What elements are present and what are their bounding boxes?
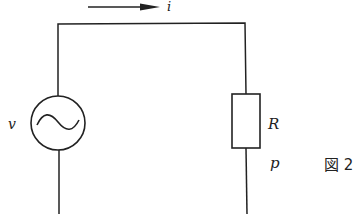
source-label: v: [8, 116, 16, 132]
current-label: i: [167, 0, 171, 14]
current-arrow-icon: [88, 4, 160, 11]
wire: [58, 23, 247, 214]
circuit-diagram: i v R p 図 2: [0, 0, 357, 214]
figure-caption: 図 2: [324, 156, 353, 174]
power-label: p: [270, 154, 280, 172]
resistor-label: R: [267, 115, 279, 133]
ac-source-icon: [31, 96, 85, 150]
resistor-icon: [232, 94, 260, 148]
